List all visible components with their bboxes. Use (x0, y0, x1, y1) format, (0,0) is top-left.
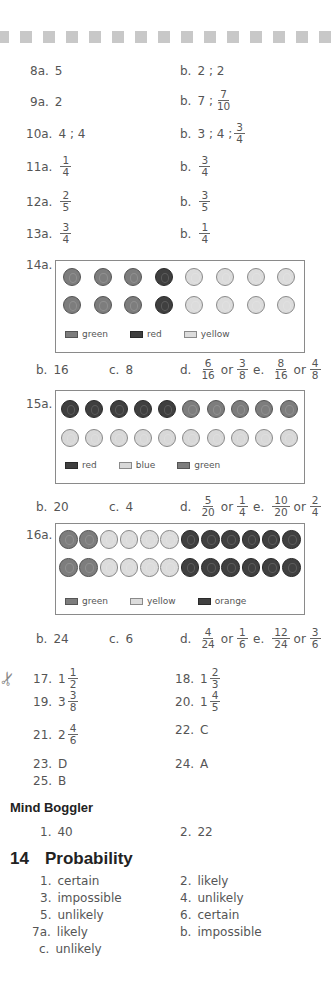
green-coin-icon (59, 558, 78, 577)
orange-coin-icon (221, 530, 240, 549)
blue-coin-icon (110, 429, 128, 447)
answer-22: 22.C (175, 723, 208, 737)
answer-10b: b.3 ; 4 ; 34 (180, 122, 247, 145)
answer-15b: b.20 (36, 500, 69, 514)
mind-boggler-heading: Mind Boggler (10, 800, 93, 815)
answer-16b: b.24 (36, 632, 69, 646)
yellow-coin-icon (216, 296, 234, 314)
probability-7a: 7a.likely (32, 925, 88, 939)
fraction: 16 (237, 627, 248, 650)
blue-coin-icon (231, 429, 249, 447)
answer-14c: c.8 (109, 363, 133, 377)
blue-swatch (119, 462, 132, 469)
answer-16a-label: 16a. (26, 528, 52, 542)
coin-row-1 (59, 530, 301, 549)
fraction: 12 (68, 667, 79, 690)
legend-16: green yellow orange (65, 596, 268, 606)
legend-15: red blue green (65, 460, 242, 470)
green-coin-icon (182, 400, 200, 418)
fraction: 1224 (272, 627, 289, 650)
blue-coin-icon (85, 429, 103, 447)
fraction: 424 (199, 627, 216, 650)
answer-15d: d. 520 or 14 (180, 495, 250, 518)
answer-14d: d. 616 or 38 (180, 358, 250, 381)
answer-20: 20.1 45 (175, 690, 222, 713)
blue-coin-icon (182, 429, 200, 447)
answer-23: 23.D (33, 757, 67, 771)
answer-15c: c.4 (109, 500, 133, 514)
answer-16d: d. 424 or 16 (180, 627, 250, 650)
answer-14b: b.16 (36, 363, 69, 377)
yellow-coin-icon (120, 530, 139, 549)
green-coin-icon (280, 400, 298, 418)
fraction: 45 (210, 690, 221, 713)
yellow-coin-icon (160, 530, 179, 549)
answer-9b: b.7 ; 710 (180, 89, 234, 112)
answer-12a: 12a. 25 (26, 190, 73, 213)
red-coin-icon (110, 400, 128, 418)
answer-16c: c.6 (109, 632, 133, 646)
fraction: 35 (199, 190, 210, 213)
coin-row-2 (59, 558, 301, 577)
legend-14: green red yellow (65, 329, 252, 339)
fraction: 24 (310, 495, 321, 518)
answer-16e: e. 1224 or 36 (253, 627, 323, 650)
coin-row-1 (61, 400, 298, 418)
fraction: 48 (310, 358, 321, 381)
coin-row-2 (63, 296, 295, 314)
answer-13b: b. 14 (180, 222, 212, 245)
answer-15a-label: 15a. (26, 397, 52, 411)
fraction: 14 (60, 155, 71, 178)
red-coin-icon (134, 400, 152, 418)
blue-coin-icon (280, 429, 298, 447)
yellow-coin-icon (160, 558, 179, 577)
red-swatch (65, 462, 78, 469)
answer-13a: 13a. 34 (26, 222, 73, 245)
probability-4: 4.unlikely (180, 891, 244, 905)
yellow-coin-icon (277, 296, 295, 314)
green-swatch (65, 331, 78, 338)
answer-8a: 8a.5 (30, 64, 62, 78)
answer-11b: b. 34 (180, 155, 212, 178)
green-coin-icon (124, 296, 142, 314)
orange-coin-icon (201, 530, 220, 549)
fraction: 34 (60, 222, 71, 245)
fraction: 34 (234, 122, 245, 145)
orange-coin-icon (181, 558, 200, 577)
coin-diagram-16: green yellow orange (55, 523, 305, 615)
yellow-coin-icon (140, 558, 159, 577)
yellow-coin-icon (185, 268, 203, 286)
red-coin-icon (85, 400, 103, 418)
yellow-coin-icon (100, 558, 119, 577)
legend-box-14: green red yellow (55, 320, 305, 353)
section-heading-probability: 14Probability (10, 849, 133, 869)
green-coin-icon (231, 400, 249, 418)
green-coin-icon (59, 530, 78, 549)
orange-coin-icon (181, 530, 200, 549)
answer-21: 21.2 46 (33, 723, 80, 746)
yellow-coin-icon (247, 268, 265, 286)
fraction: 46 (68, 723, 79, 746)
blue-coin-icon (207, 429, 225, 447)
green-coin-icon (79, 530, 98, 549)
green-coin-icon (63, 296, 81, 314)
green-coin-icon (124, 268, 142, 286)
answer-14a-label: 14a. (26, 258, 52, 272)
answer-18: 18.1 23 (175, 667, 222, 690)
coin-row-2 (61, 429, 298, 447)
red-coin-icon (61, 400, 79, 418)
probability-7b: b.impossible (180, 925, 262, 939)
scissors-icon: ✂ (0, 668, 20, 689)
blue-coin-icon (134, 429, 152, 447)
orange-coin-icon (282, 558, 301, 577)
probability-6: 6.certain (180, 908, 239, 922)
yellow-swatch (184, 331, 197, 338)
yellow-coin-icon (277, 268, 295, 286)
orange-coin-icon (262, 558, 281, 577)
probability-7c: c.unlikely (39, 942, 102, 956)
answer-9a: 9a.2 (30, 95, 62, 109)
green-swatch (65, 598, 78, 605)
orange-swatch (198, 598, 211, 605)
green-swatch (177, 462, 190, 469)
fraction: 34 (199, 155, 210, 178)
